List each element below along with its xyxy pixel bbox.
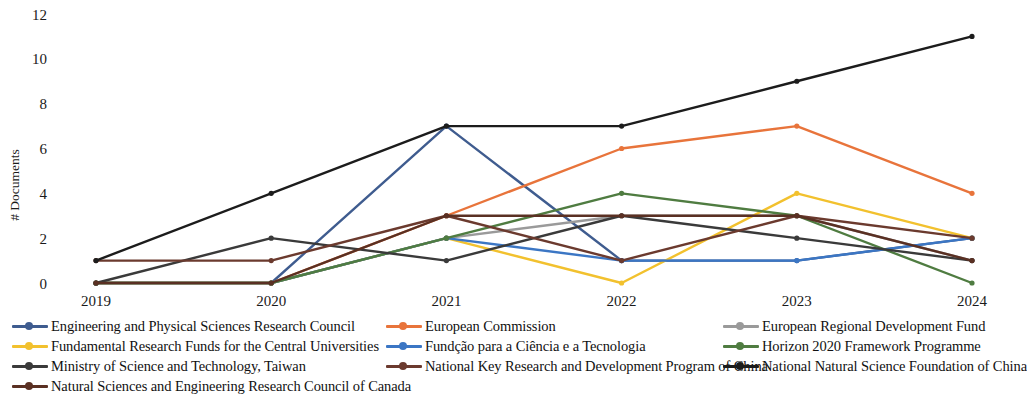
- legend-color-swatch: [12, 380, 48, 392]
- data-point: [93, 258, 98, 263]
- data-point: [269, 258, 274, 263]
- legend-label: National Key Research and Development Pr…: [425, 358, 768, 374]
- legend-color-swatch: [386, 360, 422, 372]
- data-point: [269, 191, 274, 196]
- data-point: [269, 280, 274, 285]
- y-tick-label: 0: [40, 276, 48, 292]
- legend-color-swatch: [723, 360, 759, 372]
- data-point: [619, 191, 624, 196]
- data-point: [794, 191, 799, 196]
- legend-item[interactable]: National Natural Science Foundation of C…: [723, 356, 1027, 376]
- data-point: [619, 280, 624, 285]
- y-tick-label: 2: [40, 231, 48, 247]
- data-point: [444, 236, 449, 241]
- legend-label: Natural Sciences and Engineering Researc…: [51, 378, 411, 394]
- legend-label: Fundção para a Ciência e a Tecnologia: [425, 338, 645, 354]
- legend-item[interactable]: Engineering and Physical Sciences Resear…: [12, 316, 355, 336]
- y-tick-label: 8: [40, 96, 48, 112]
- data-point: [969, 258, 974, 263]
- legend-color-swatch: [386, 340, 422, 352]
- data-point: [969, 34, 974, 39]
- data-point: [619, 213, 624, 218]
- legend-item[interactable]: Ministry of Science and Technology, Taiw…: [12, 356, 306, 376]
- legend-color-swatch: [723, 340, 759, 352]
- legend-color-swatch: [12, 360, 48, 372]
- legend-label: Fundamental Research Funds for the Centr…: [51, 338, 379, 354]
- x-tick-label: 2021: [431, 293, 461, 309]
- y-axis-title-group: # Documents: [7, 149, 22, 221]
- legend-color-swatch: [12, 340, 48, 352]
- legend-item[interactable]: Horizon 2020 Framework Programme: [723, 336, 981, 356]
- legend-label: European Regional Development Fund: [762, 318, 985, 334]
- data-point: [794, 213, 799, 218]
- y-tick-label: 4: [40, 186, 48, 202]
- data-point: [969, 280, 974, 285]
- y-axis-tick-labels: 024681012: [32, 7, 48, 292]
- legend-item[interactable]: Fundção para a Ciência e a Tecnologia: [386, 336, 645, 356]
- y-tick-label: 12: [32, 7, 47, 23]
- x-tick-label: 2024: [957, 293, 988, 309]
- plot-svg: 024681012 # Documents 201920202021202220…: [0, 0, 1003, 312]
- data-point: [794, 123, 799, 128]
- x-tick-label: 2019: [81, 293, 111, 309]
- legend-item[interactable]: National Key Research and Development Pr…: [386, 356, 768, 376]
- data-point: [444, 213, 449, 218]
- data-point: [444, 258, 449, 263]
- x-tick-label: 2020: [256, 293, 286, 309]
- data-point: [619, 123, 624, 128]
- legend-label: Engineering and Physical Sciences Resear…: [51, 318, 355, 334]
- legend-label: European Commission: [425, 318, 556, 334]
- x-tick-label: 2022: [607, 293, 637, 309]
- data-point: [444, 123, 449, 128]
- y-axis-title: # Documents: [7, 149, 22, 221]
- series-lines: [93, 34, 974, 286]
- data-point: [969, 191, 974, 196]
- legend-color-swatch: [723, 320, 759, 332]
- chart-legend: Engineering and Physical Sciences Resear…: [0, 314, 1003, 397]
- plot-area: 024681012 # Documents 201920202021202220…: [0, 0, 1003, 312]
- x-axis-tick-labels: 201920202021202220232024: [81, 293, 988, 309]
- legend-item[interactable]: Fundamental Research Funds for the Centr…: [12, 336, 379, 356]
- data-point: [969, 236, 974, 241]
- series-national-natural-science-foundation-of-china: [93, 34, 974, 263]
- data-point: [269, 236, 274, 241]
- legend-color-swatch: [12, 320, 48, 332]
- y-tick-label: 6: [40, 141, 48, 157]
- data-point: [93, 280, 98, 285]
- legend-label: Ministry of Science and Technology, Taiw…: [51, 358, 306, 374]
- legend-item[interactable]: European Commission: [386, 316, 556, 336]
- data-point: [794, 79, 799, 84]
- data-point: [794, 258, 799, 263]
- legend-label: Horizon 2020 Framework Programme: [762, 338, 981, 354]
- data-point: [794, 236, 799, 241]
- x-tick-label: 2023: [782, 293, 812, 309]
- legend-item[interactable]: European Regional Development Fund: [723, 316, 985, 336]
- y-tick-label: 10: [32, 51, 47, 67]
- legend-label: National Natural Science Foundation of C…: [762, 358, 1027, 374]
- legend-color-swatch: [386, 320, 422, 332]
- data-point: [619, 146, 624, 151]
- data-point: [619, 258, 624, 263]
- legend-item[interactable]: Natural Sciences and Engineering Researc…: [12, 376, 411, 396]
